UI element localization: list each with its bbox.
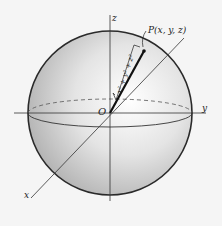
diagram-svg: z y x O P(x, y, z) x² + y² + z² <box>0 0 222 226</box>
point-p <box>142 49 146 53</box>
sphere-diagram: z y x O P(x, y, z) x² + y² + z² <box>0 0 222 226</box>
origin-label: O <box>98 106 106 117</box>
y-axis-label: y <box>201 103 208 113</box>
z-axis-label: z <box>111 13 117 23</box>
point-label: P(x, y, z) <box>147 25 187 35</box>
x-axis-label: x <box>24 190 29 200</box>
